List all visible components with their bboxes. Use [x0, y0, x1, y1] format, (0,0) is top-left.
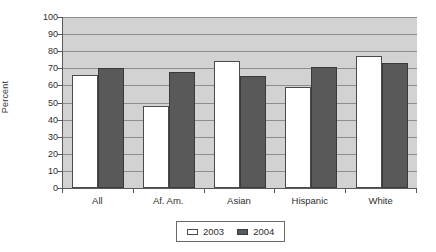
- x-axis-label-hispanic: Hispanic: [274, 195, 345, 206]
- x-axis-tick-mark: [345, 188, 346, 193]
- y-axis-tick-label: 40: [32, 116, 58, 125]
- bar-white-2004: [382, 63, 408, 188]
- bar-chart: Percent 1009080706050403020100 AllAf. Am…: [0, 0, 436, 252]
- y-axis-tick-label: 80: [32, 47, 58, 56]
- x-axis-label-af-am: Af. Am.: [133, 195, 204, 206]
- plot-top-border: [63, 17, 417, 18]
- y-axis-tick-label: 60: [32, 81, 58, 90]
- legend-swatch-icon-2004: [237, 229, 248, 235]
- y-axis-tick-label: 0: [32, 184, 58, 193]
- chart-legend: 20032004: [176, 221, 285, 242]
- legend-item-2003: 2003: [187, 227, 224, 237]
- x-axis-tick-mark: [204, 188, 205, 193]
- x-axis-tick-mark: [133, 188, 134, 193]
- y-axis-tick-label: 10: [32, 167, 58, 176]
- bar-white-2003: [356, 56, 382, 188]
- y-axis-tick-label: 50: [32, 99, 58, 108]
- x-axis-tick-mark: [274, 188, 275, 193]
- legend-swatch-icon-2003: [187, 229, 198, 235]
- x-axis-label-asian: Asian: [204, 195, 275, 206]
- legend-label-2003: 2003: [203, 227, 224, 237]
- y-axis-tick-label: 20: [32, 150, 58, 159]
- legend-item-2004: 2004: [237, 227, 274, 237]
- x-axis-label-white: White: [345, 195, 416, 206]
- plot-area: [62, 17, 417, 189]
- bar-all-2004: [98, 68, 124, 188]
- y-axis-title: Percent: [0, 62, 10, 132]
- bar-hispanic-2003: [285, 87, 311, 188]
- y-axis-tick-label: 70: [32, 64, 58, 73]
- bar-asian-2004: [240, 76, 266, 188]
- bar-asian-2003: [214, 61, 240, 188]
- y-axis-tick-label: 100: [32, 13, 58, 22]
- x-axis-label-all: All: [62, 195, 133, 206]
- y-axis-tick-label: 30: [32, 133, 58, 142]
- y-axis-tick-label: 90: [32, 30, 58, 39]
- bar-all-2003: [72, 75, 98, 188]
- legend-label-2004: 2004: [253, 227, 274, 237]
- bar-af-am-2004: [169, 72, 195, 188]
- gridline: [63, 34, 417, 35]
- x-axis-tick-mark: [416, 188, 417, 193]
- x-axis-tick-mark: [62, 188, 63, 193]
- bar-hispanic-2004: [311, 67, 337, 188]
- bar-af-am-2003: [143, 106, 169, 188]
- gridline: [63, 51, 417, 52]
